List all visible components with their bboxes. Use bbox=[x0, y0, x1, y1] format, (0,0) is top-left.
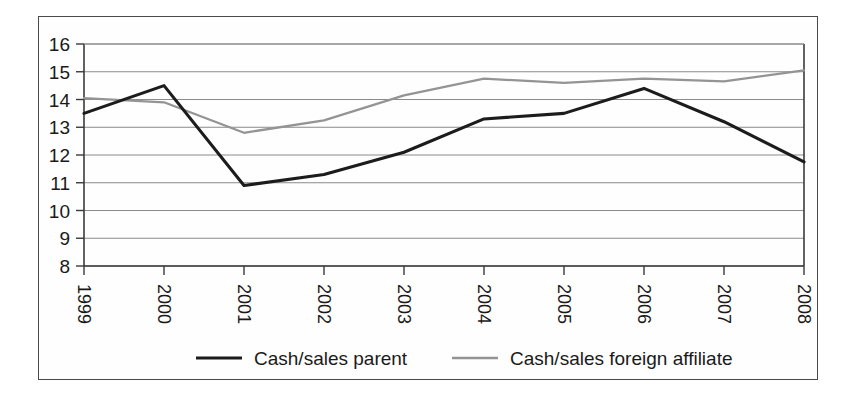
chart-legend: Cash/sales parentCash/sales foreign affi… bbox=[196, 348, 733, 369]
x-axis-label-2004: 2004 bbox=[474, 284, 494, 324]
legend-label-foreign-affiliate: Cash/sales foreign affiliate bbox=[510, 348, 733, 369]
x-axis-label-2006: 2006 bbox=[634, 284, 654, 324]
y-tick-label: 10 bbox=[49, 201, 70, 222]
x-axis-label-2003: 2003 bbox=[394, 284, 414, 324]
y-axis-ticks bbox=[76, 44, 84, 266]
chart-figure: 8910111213141516 19992000200120022003200… bbox=[0, 0, 852, 398]
x-axis-label-1999: 1999 bbox=[74, 284, 94, 324]
y-tick-label: 8 bbox=[59, 256, 70, 277]
x-axis-year-labels: 1999200020012002200320042005200620072008 bbox=[74, 284, 814, 324]
gridlines bbox=[84, 44, 804, 266]
series-line-parent bbox=[84, 86, 804, 186]
x-axis-label-2001: 2001 bbox=[234, 284, 254, 324]
y-axis-tick-labels: 8910111213141516 bbox=[49, 34, 71, 277]
x-axis-label-2002: 2002 bbox=[314, 284, 334, 324]
x-axis-label-2007: 2007 bbox=[714, 284, 734, 324]
y-tick-label: 15 bbox=[49, 62, 70, 83]
x-axis-label-2005: 2005 bbox=[554, 284, 574, 324]
x-axis-label-2008: 2008 bbox=[794, 284, 814, 324]
y-tick-label: 13 bbox=[49, 117, 70, 138]
y-tick-label: 14 bbox=[49, 90, 71, 111]
y-tick-label: 12 bbox=[49, 145, 70, 166]
y-tick-label: 9 bbox=[59, 228, 70, 249]
x-axis-label-2000: 2000 bbox=[154, 284, 174, 324]
plot-wrapper: 8910111213141516 19992000200120022003200… bbox=[0, 0, 852, 398]
series-line-foreign-affiliate bbox=[84, 70, 804, 132]
legend-label-parent: Cash/sales parent bbox=[254, 348, 408, 369]
data-series bbox=[84, 70, 804, 185]
y-tick-label: 11 bbox=[50, 173, 70, 194]
x-axis-ticks bbox=[84, 266, 804, 275]
line-chart-svg: 8910111213141516 19992000200120022003200… bbox=[0, 0, 852, 398]
y-tick-label: 16 bbox=[49, 34, 70, 55]
